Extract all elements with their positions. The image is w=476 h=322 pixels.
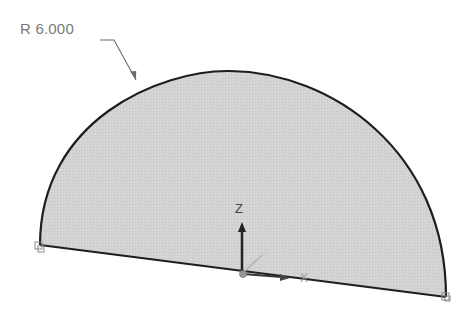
z-axis-label: Z <box>235 201 243 216</box>
x-axis-label: X <box>300 271 308 285</box>
radius-leader <box>100 40 137 80</box>
origin-marker-icon <box>240 271 247 278</box>
radius-dimension-label[interactable]: R 6.000 <box>20 20 74 37</box>
sketch-canvas[interactable] <box>0 0 476 322</box>
